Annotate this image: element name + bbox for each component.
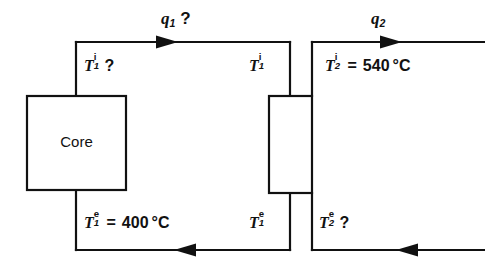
t1-exit-hx-subscript: 1: [259, 218, 264, 228]
t2-exit-indices: e2: [329, 212, 336, 228]
flow-label-q2-symbol: q: [371, 9, 380, 28]
arrowhead-top-primary: [156, 36, 178, 43]
t2-exit-suffix: ?: [340, 214, 350, 231]
t2-inlet-subscript: 2: [335, 61, 340, 71]
temperature-label-t2-inlet: Ti2=540°C: [325, 55, 411, 74]
temperature-label-t1-exit-hx: Te1: [249, 212, 266, 231]
t1-exit-core-symbol: T: [84, 214, 94, 231]
temperature-label-t2-exit: Te2?: [319, 212, 349, 231]
t1-inlet-core-subscript: 1: [94, 61, 99, 71]
t1-inlet-hx-subscript: 1: [259, 61, 264, 71]
t1-inlet-core-indices: i1: [94, 55, 101, 71]
flow-label-q1-subscript: 1: [170, 17, 176, 29]
t1-inlet-hx-symbol: T: [249, 57, 259, 74]
diagram-canvas: q1? q2 Ti1? Ti1 Ti2=540°C Core Te1=400°C…: [0, 0, 485, 270]
t2-exit-symbol: T: [319, 214, 329, 231]
flow-label-q2: q2: [371, 10, 385, 29]
arrowhead-top-primary-lower: [156, 42, 178, 49]
t1-exit-core-equals: =: [107, 214, 116, 231]
t1-exit-hx-indices: e1: [259, 212, 266, 228]
heat-exchanger-block-outline: [269, 96, 312, 193]
temperature-label-t1-exit-core: Te1=400°C: [84, 212, 170, 231]
t2-inlet-value: 540: [363, 57, 390, 74]
t1-exit-core-value: 400: [122, 214, 149, 231]
t1-exit-core-unit: °C: [152, 214, 170, 231]
t2-inlet-symbol: T: [325, 57, 335, 74]
flow-label-q2-subscript: 2: [380, 17, 386, 29]
t1-exit-core-indices: e1: [94, 212, 101, 228]
temperature-label-t1-inlet-hx: Ti1: [249, 55, 266, 74]
t2-inlet-unit: °C: [393, 57, 411, 74]
t1-exit-core-subscript: 1: [94, 218, 99, 228]
t2-exit-subscript: 2: [329, 218, 334, 228]
temperature-label-t1-inlet-core: Ti1?: [84, 55, 114, 74]
t1-inlet-core-suffix: ?: [105, 57, 115, 74]
core-block-label: Core: [27, 134, 126, 149]
flow-label-q1-suffix: ?: [180, 9, 190, 28]
t2-inlet-indices: i2: [335, 55, 342, 71]
t1-inlet-core-symbol: T: [84, 57, 94, 74]
flow-label-q1-symbol: q: [161, 9, 170, 28]
t1-exit-hx-symbol: T: [249, 214, 259, 231]
t1-inlet-hx-indices: i1: [259, 55, 266, 71]
flow-label-q1: q1?: [161, 10, 191, 29]
t2-inlet-equals: =: [348, 57, 357, 74]
